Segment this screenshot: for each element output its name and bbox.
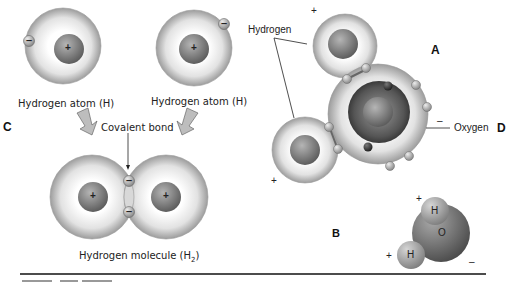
covalent-bond-label: Covalent bond: [101, 122, 174, 134]
electron-minus-sign: –: [126, 174, 132, 186]
water-orbital-model: [272, 14, 450, 183]
negative-charge-sign: –: [437, 115, 443, 126]
nucleus-plus-sign: +: [191, 42, 197, 53]
oxygen-symbol: O: [438, 227, 446, 238]
electron-minus-sign: –: [126, 205, 132, 217]
hydrogen-symbol-top: H: [431, 205, 438, 216]
hydrogen-atom-left-label: Hydrogen atom (H): [18, 98, 114, 110]
nucleus-plus-sign: +: [90, 190, 96, 201]
negative-charge-sign: –: [469, 256, 475, 267]
molecule-label-text: Hydrogen molecule (H: [79, 250, 191, 261]
panel-label-a: A: [431, 43, 440, 57]
oxygen-label: Oxygen: [454, 122, 488, 134]
hydrogen-atom-left: [24, 8, 102, 84]
hydrogen-symbol-bottom: H: [407, 249, 414, 260]
molecule-label-close: ): [195, 250, 199, 261]
arrow-left-icon: [77, 108, 97, 135]
panel-label-b: B: [332, 227, 340, 239]
arrow-right-icon: [177, 108, 198, 135]
hydrogen-label: Hydrogen: [248, 24, 291, 36]
nucleus-plus-sign: +: [65, 42, 71, 53]
electron-minus-sign: –: [221, 17, 227, 29]
nucleus-plus-sign: +: [163, 190, 169, 201]
hydrogen-molecule: [50, 155, 208, 239]
panel-label-c: C: [3, 120, 12, 134]
positive-charge-sign: +: [386, 250, 392, 261]
hydrogen-atom-right-label: Hydrogen atom (H): [151, 96, 247, 108]
hydrogen-molecule-label: Hydrogen molecule (H2): [79, 250, 199, 266]
positive-charge-sign: +: [416, 193, 422, 204]
electron-minus-sign: –: [26, 34, 32, 46]
positive-charge-sign: +: [271, 175, 277, 186]
positive-charge-sign: +: [311, 5, 317, 16]
panel-label-d: D: [497, 121, 506, 135]
